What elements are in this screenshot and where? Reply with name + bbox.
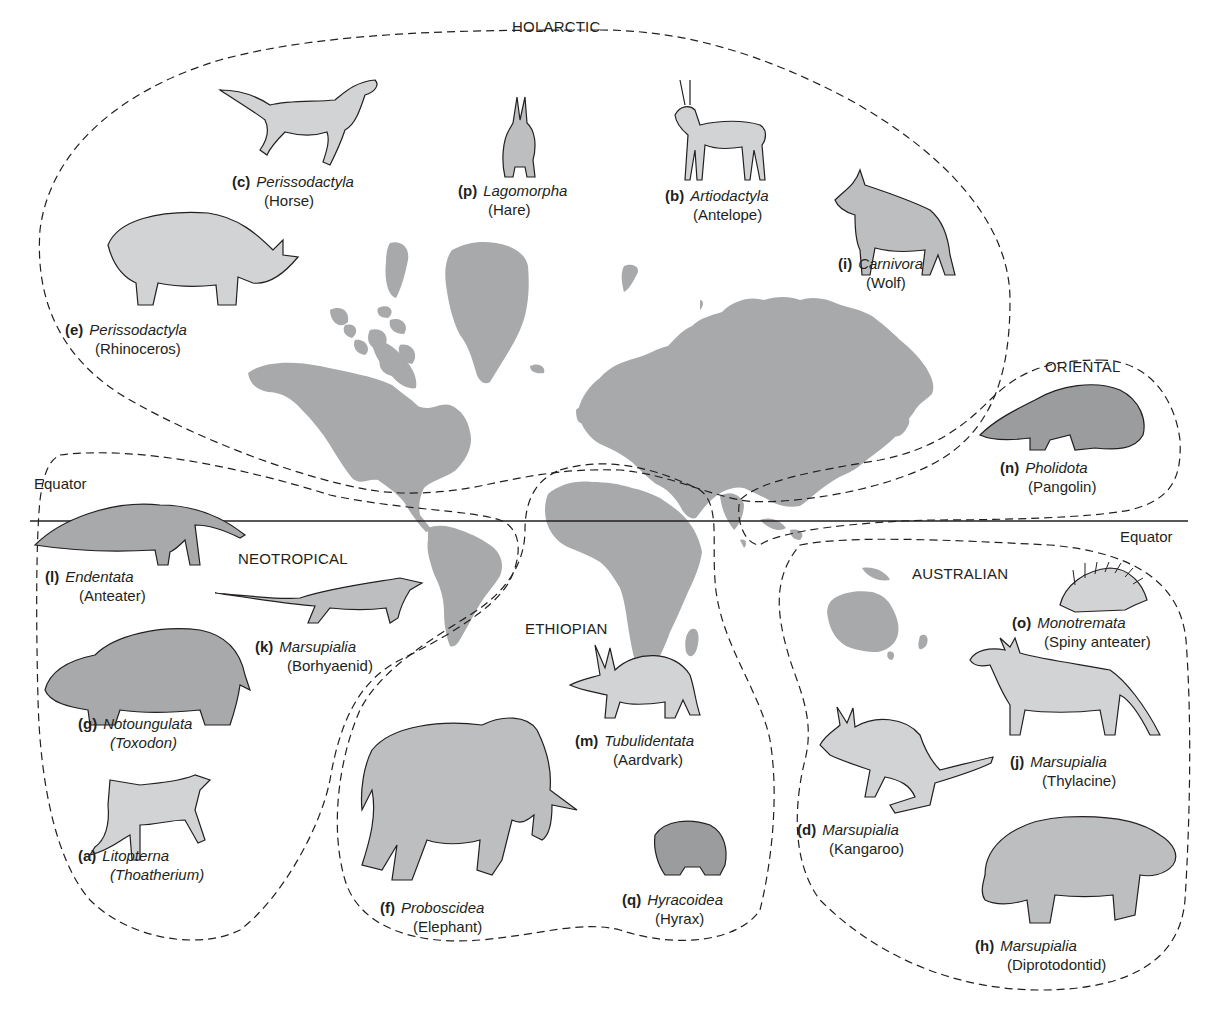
label-f-elephant: (f)Proboscidea (Elephant) <box>380 898 484 936</box>
region-label-neotropical: NEOTROPICAL <box>238 550 348 567</box>
order-name: Litopterna <box>102 847 169 864</box>
kangaroo-illustration <box>815 705 995 815</box>
common-name: (Kangaroo) <box>797 839 904 858</box>
label-g-toxodon: (g)Notoungulata (Toxodon) <box>78 714 192 752</box>
label-d-kangaroo: (d)Marsupialia (Kangaroo) <box>797 820 904 858</box>
order-name: Carnivora <box>858 255 923 272</box>
spiny-anteater-illustration <box>1055 560 1150 615</box>
label-o-spiny-anteater: (o)Monotremata (Spiny anteater) <box>1012 613 1151 651</box>
common-name: (Hyrax) <box>622 909 723 928</box>
north-america <box>248 363 471 532</box>
toxodon-illustration <box>40 615 255 730</box>
label-letter: (o) <box>1012 614 1031 631</box>
order-name: Endentata <box>65 568 133 585</box>
label-letter: (f) <box>380 899 395 916</box>
order-name: Perissodactyla <box>256 173 354 190</box>
label-letter: (h) <box>975 937 994 954</box>
common-name: (Antelope) <box>665 205 769 224</box>
label-letter: (n) <box>1000 459 1019 476</box>
tasmania <box>887 652 894 660</box>
label-letter: (g) <box>78 715 97 732</box>
thylacine-illustration <box>965 635 1165 745</box>
order-name: Notoungulata <box>103 715 192 732</box>
label-i-wolf: (i)Carnivora (Wolf) <box>838 254 923 292</box>
order-name: Monotremata <box>1037 614 1125 631</box>
greenland <box>445 242 528 383</box>
common-name: (Spiny anteater) <box>1012 632 1151 651</box>
label-b-antelope: (b)Artiodactyla (Antelope) <box>665 186 769 224</box>
label-letter: (c) <box>232 173 250 190</box>
order-name: Pholidota <box>1025 459 1088 476</box>
elephant-illustration <box>352 710 582 895</box>
common-name: (Horse) <box>232 191 354 210</box>
label-n-pangolin: (n)Pholidota (Pangolin) <box>1000 458 1096 496</box>
common-name: (Elephant) <box>380 917 484 936</box>
label-letter: (i) <box>838 255 852 272</box>
label-letter: (j) <box>1010 753 1024 770</box>
iceland <box>530 364 544 373</box>
anteater-illustration <box>30 490 250 575</box>
order-name: Marsupialia <box>822 821 899 838</box>
label-letter: (q) <box>622 891 641 908</box>
horse-illustration <box>215 70 385 170</box>
common-name: (Thoatherium) <box>78 865 204 884</box>
ellesmere-island <box>385 242 408 298</box>
label-letter: (k) <box>255 638 273 655</box>
common-name: (Anteater) <box>45 586 146 605</box>
common-name: (Pangolin) <box>1000 477 1096 496</box>
label-letter: (l) <box>45 568 59 585</box>
label-j-thylacine: (j)Marsupialia (Thylacine) <box>1010 752 1116 790</box>
common-name: (Toxodon) <box>78 733 192 752</box>
hyrax-illustration <box>650 815 730 880</box>
label-k-borhyaenid: (k)Marsupialia (Borhyaenid) <box>255 637 373 675</box>
label-q-hyrax: (q)Hyracoidea (Hyrax) <box>622 890 723 928</box>
label-l-anteater: (l)Endentata (Anteater) <box>45 567 146 605</box>
region-label-holarctic: HOLARCTIC <box>512 18 600 35</box>
novaya-zemlya <box>700 300 703 310</box>
common-name: (Rhinoceros) <box>65 339 187 358</box>
order-name: Lagomorpha <box>483 182 567 199</box>
common-name: (Borhyaenid) <box>255 656 373 675</box>
common-name: (Thylacine) <box>1010 771 1116 790</box>
label-letter: (a) <box>78 847 96 864</box>
svalbard <box>622 265 638 292</box>
label-h-diprotodontid: (h)Marsupialia (Diprotodontid) <box>975 936 1106 974</box>
rhinoceros-illustration <box>98 205 303 310</box>
region-label-ethiopian: ETHIOPIAN <box>525 620 608 637</box>
label-a-thoatherium: (a)Litopterna (Thoatherium) <box>78 846 204 884</box>
order-name: Marsupialia <box>279 638 356 655</box>
antelope-illustration <box>670 75 775 185</box>
order-name: Hyracoidea <box>647 891 723 908</box>
order-name: Marsupialia <box>1030 753 1107 770</box>
label-p-hare: (p)Lagomorpha (Hare) <box>458 181 567 219</box>
common-name: (Diprotodontid) <box>975 955 1106 974</box>
australia <box>827 591 898 652</box>
label-letter: (p) <box>458 182 477 199</box>
label-letter: (m) <box>575 732 598 749</box>
diprotodontid-illustration <box>975 805 1180 930</box>
label-m-aardvark: (m)Tubulidentata (Aardvark) <box>575 731 694 769</box>
eurasia <box>578 297 933 518</box>
order-name: Marsupialia <box>1000 937 1077 954</box>
label-letter: (e) <box>65 321 83 338</box>
aardvark-illustration <box>565 640 705 720</box>
common-name: (Hare) <box>458 200 567 219</box>
new-guinea <box>862 568 890 581</box>
region-label-australian: AUSTRALIAN <box>912 565 1008 582</box>
order-name: Perissodactyla <box>89 321 187 338</box>
pangolin-illustration <box>975 370 1150 455</box>
common-name: (Aardvark) <box>575 750 694 769</box>
new-zealand <box>918 635 927 649</box>
hare-illustration <box>495 95 545 180</box>
order-name: Artiodactyla <box>690 187 768 204</box>
common-name: (Wolf) <box>838 273 923 292</box>
order-name: Proboscidea <box>401 899 484 916</box>
label-e-rhinoceros: (e)Perissodactyla (Rhinoceros) <box>65 320 187 358</box>
indonesia <box>740 518 802 548</box>
label-c-horse: (c)Perissodactyla (Horse) <box>232 172 354 210</box>
equator-label-right: Equator <box>1120 528 1173 545</box>
south-america <box>427 526 502 647</box>
order-name: Tubulidentata <box>604 732 694 749</box>
label-letter: (d) <box>797 821 816 838</box>
label-letter: (b) <box>665 187 684 204</box>
